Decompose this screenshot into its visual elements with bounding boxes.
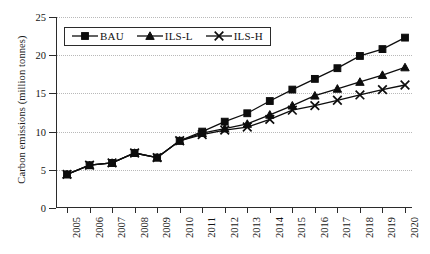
- legend-item[interactable]: ILS-H: [206, 30, 263, 42]
- x-axis-tick-label: 2015: [296, 217, 307, 238]
- carbon-emissions-line-chart: Carbon emissions (million tonnes) 051015…: [0, 0, 430, 254]
- square-marker-icon: [266, 98, 273, 105]
- y-axis-tick: [49, 93, 56, 94]
- x-axis-tick-label: 2013: [251, 217, 262, 238]
- legend-item[interactable]: ILS-L: [137, 30, 193, 42]
- x-axis-tick-label: 2010: [184, 217, 195, 238]
- y-axis-tick-label: 0: [41, 203, 46, 214]
- y-axis-tick: [49, 132, 56, 133]
- x-axis-tick-label: 2005: [71, 217, 82, 238]
- series-line: [67, 85, 405, 174]
- square-marker-icon: [82, 33, 89, 40]
- x-axis-tick-label: 2008: [139, 217, 150, 238]
- x-axis-tick-label: 2020: [409, 217, 420, 238]
- x-axis-tick-label: 2011: [206, 217, 217, 238]
- x-axis-tick: [157, 207, 158, 213]
- triangle-marker-icon: [137, 30, 163, 42]
- x-axis-tick-label: 2018: [364, 217, 375, 238]
- x-axis-tick: [315, 207, 316, 213]
- triangle-marker-icon: [401, 63, 409, 71]
- legend-item[interactable]: BAU: [72, 30, 124, 42]
- x-axis-tick-label: 2009: [161, 217, 172, 238]
- legend-label: BAU: [100, 30, 124, 42]
- y-axis-tick-label: 20: [36, 50, 47, 61]
- x-axis-tick: [382, 207, 383, 213]
- y-axis-tick-label: 5: [41, 164, 46, 175]
- y-axis-title: Carbon emissions (million tonnes): [16, 15, 27, 205]
- y-axis-tick-label: 15: [36, 88, 47, 99]
- x-axis-tick: [247, 207, 248, 213]
- y-axis-tick: [49, 170, 56, 171]
- x-axis-tick: [180, 207, 181, 213]
- legend-label: ILS-H: [234, 30, 263, 42]
- square-marker-icon: [334, 65, 341, 72]
- x-axis-tick: [135, 207, 136, 213]
- y-axis-tick-label: 25: [36, 12, 47, 23]
- x-axis-tick: [270, 207, 271, 213]
- series-line: [67, 38, 405, 175]
- x-axis-tick-label: 2019: [386, 217, 397, 238]
- square-marker-icon: [289, 86, 296, 93]
- x-axis-tick: [90, 207, 91, 213]
- x-axis-tick: [292, 207, 293, 213]
- x-axis-tick: [112, 207, 113, 213]
- series-line: [67, 67, 405, 174]
- x-axis-tick-label: 2017: [341, 217, 352, 238]
- cross-marker-icon: [356, 91, 365, 100]
- chart-legend: BAUILS-LILS-H: [64, 27, 271, 46]
- x-axis-tick: [67, 207, 68, 213]
- x-axis-tick: [405, 207, 406, 213]
- cross-marker-icon: [206, 30, 232, 42]
- x-axis-tick: [337, 207, 338, 213]
- x-axis-tick-label: 2014: [274, 217, 285, 238]
- y-axis-tick: [49, 17, 56, 18]
- x-axis-tick-label: 2006: [94, 217, 105, 238]
- x-axis-tick-label: 2007: [116, 217, 127, 238]
- x-axis-tick: [360, 207, 361, 213]
- x-axis-tick-label: 2012: [229, 217, 240, 238]
- x-axis-tick: [202, 207, 203, 213]
- y-axis-tick: [49, 208, 56, 209]
- y-axis-tick: [49, 55, 56, 56]
- square-marker-icon: [72, 30, 98, 42]
- cross-marker-icon: [333, 96, 342, 105]
- square-marker-icon: [244, 110, 251, 117]
- legend-label: ILS-L: [165, 30, 193, 42]
- y-axis-tick-label: 10: [36, 126, 47, 137]
- square-marker-icon: [402, 34, 409, 41]
- x-axis-tick: [225, 207, 226, 213]
- x-axis-tick-label: 2016: [319, 217, 330, 238]
- square-marker-icon: [357, 53, 364, 60]
- square-marker-icon: [311, 75, 318, 82]
- square-marker-icon: [379, 46, 386, 53]
